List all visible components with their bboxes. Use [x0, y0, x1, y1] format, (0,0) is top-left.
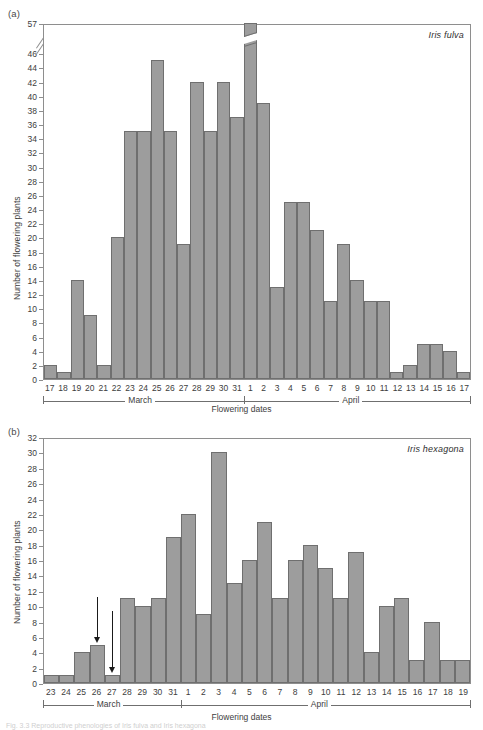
- x-tick-label: 17: [458, 384, 471, 393]
- x-tick-label: 8: [288, 688, 303, 697]
- x-tick-label: 18: [56, 384, 69, 393]
- histogram-bar: [177, 244, 190, 379]
- histogram-bar: [74, 652, 89, 683]
- histogram-bar: [257, 522, 272, 683]
- histogram-bar: [257, 103, 270, 379]
- histogram-bar: [227, 583, 242, 683]
- histogram-bar: [190, 82, 203, 379]
- y-tick-label: 42: [11, 79, 37, 88]
- y-tick-label: 32: [11, 149, 37, 158]
- y-tick-label: 30: [11, 164, 37, 173]
- histogram-bar: [90, 645, 105, 683]
- y-tick-label: 12: [11, 588, 37, 597]
- histogram-bar: [377, 301, 390, 379]
- y-tick-label: 32: [11, 434, 37, 443]
- x-tick-label: 5: [297, 384, 310, 393]
- x-tick-label: 3: [270, 384, 283, 393]
- x-tick-label: 23: [43, 688, 58, 697]
- y-tick-label: 20: [11, 526, 37, 535]
- x-tick-label: 24: [137, 384, 150, 393]
- x-tick-label: 29: [204, 384, 217, 393]
- x-tick-label: 24: [58, 688, 73, 697]
- x-tick-label: 20: [83, 384, 96, 393]
- x-tick-label: 15: [431, 384, 444, 393]
- x-tick-label: 1: [181, 688, 196, 697]
- histogram-bar: [284, 202, 297, 379]
- y-tick-label: 26: [11, 480, 37, 489]
- panel-b: (b) Number of flowering plants 024681012…: [0, 424, 483, 730]
- x-tick-label: 1: [244, 384, 257, 393]
- panel-a-x-tick-labels: 1718192021222324252627282930311234567891…: [43, 384, 471, 393]
- month-bracket-april: April: [181, 700, 471, 710]
- histogram-bar: [440, 660, 455, 683]
- x-tick-label: 2: [257, 384, 270, 393]
- histogram-bar: [44, 365, 57, 379]
- x-tick-label: 7: [324, 384, 337, 393]
- histogram-bar: [403, 365, 416, 379]
- histogram-bar: [242, 560, 257, 683]
- y-tick-label: 46: [11, 50, 37, 59]
- histogram-bar: [105, 675, 120, 683]
- y-tick-label: 10: [11, 305, 37, 314]
- x-tick-label: 5: [242, 688, 257, 697]
- histogram-bar: [59, 675, 74, 683]
- y-tick-label: 2: [11, 665, 37, 674]
- histogram-bar: [333, 598, 348, 683]
- y-tick-label: 4: [11, 348, 37, 357]
- histogram-bar: [151, 598, 166, 683]
- x-tick-label: 12: [349, 688, 364, 697]
- x-tick-label: 4: [284, 384, 297, 393]
- x-tick-label: 18: [440, 688, 455, 697]
- x-tick-label: 9: [351, 384, 364, 393]
- panel-a-x-axis-title: Flowering dates: [0, 404, 483, 414]
- y-tick-label: 4: [11, 649, 37, 658]
- x-tick-label: 16: [410, 688, 425, 697]
- histogram-bar: [348, 552, 363, 683]
- y-tick-label: 24: [11, 206, 37, 215]
- y-tick-label: 44: [11, 64, 37, 73]
- histogram-bar: [84, 315, 97, 379]
- arrow-shaft: [97, 597, 98, 638]
- x-tick-label: 10: [364, 384, 377, 393]
- x-tick-label: 21: [97, 384, 110, 393]
- month-bracket-cap: [470, 396, 471, 404]
- x-tick-label: 26: [163, 384, 176, 393]
- panel-b-x-tick-labels: 2324252627282930311234567891011121314151…: [43, 688, 471, 697]
- histogram-bar: [457, 372, 470, 379]
- y-tick-label: 30: [11, 449, 37, 458]
- histogram-bar: [181, 514, 196, 683]
- x-tick-label: 25: [74, 688, 89, 697]
- x-tick-label: 14: [379, 688, 394, 697]
- month-label: March: [94, 699, 124, 709]
- y-tick-label: 38: [11, 107, 37, 116]
- y-tick-label: 2: [11, 362, 37, 371]
- x-tick-label: 11: [333, 688, 348, 697]
- y-tick: [39, 684, 43, 685]
- arrow-head-icon: [94, 637, 100, 643]
- histogram-bar: [324, 301, 337, 379]
- x-tick-label: 28: [119, 688, 134, 697]
- y-tick-label: 22: [11, 511, 37, 520]
- x-tick-label: 17: [43, 384, 56, 393]
- y-tick-label: 22: [11, 220, 37, 229]
- histogram-bar: [164, 131, 177, 379]
- histogram-bar: [337, 244, 350, 379]
- y-tick-label: 57: [11, 20, 37, 29]
- x-tick-label: 13: [404, 384, 417, 393]
- x-tick-label: 26: [89, 688, 104, 697]
- y-tick-label: 16: [11, 557, 37, 566]
- y-tick-label: 0: [11, 376, 37, 385]
- annotation-arrow-down: [109, 611, 116, 673]
- histogram-bar: [303, 545, 318, 683]
- y-tick-label: 18: [11, 249, 37, 258]
- x-tick-label: 14: [418, 384, 431, 393]
- y-tick-label: 20: [11, 234, 37, 243]
- histogram-bar: [390, 372, 403, 379]
- y-tick-label: 14: [11, 572, 37, 581]
- x-tick-label: 23: [123, 384, 136, 393]
- histogram-bar: [430, 344, 443, 379]
- y-tick-label: 12: [11, 291, 37, 300]
- histogram-bar: [394, 598, 409, 683]
- y-tick-label: 40: [11, 93, 37, 102]
- x-tick-label: 25: [150, 384, 163, 393]
